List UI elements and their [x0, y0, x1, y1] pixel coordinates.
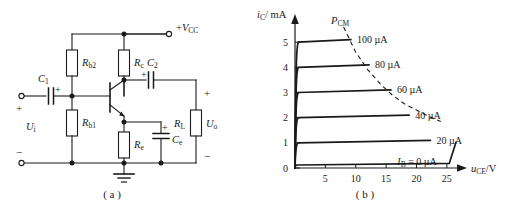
figure-root: +VCC Rb2 Rb1 Rc Re RL C1 C2 Ce Ui Uo + −…: [0, 0, 521, 210]
curve-label: 40 µA: [415, 110, 441, 121]
resistor-re-body: [119, 132, 130, 158]
x-tick-label: 20: [411, 173, 421, 184]
junction-dot: [122, 120, 127, 125]
y-tick-label: 3: [283, 87, 288, 98]
supply-label-sub: CC: [188, 26, 198, 35]
label-c2: C2: [147, 57, 158, 70]
uo-plus-sign: +: [204, 87, 210, 99]
ce-plus-sign: +: [162, 122, 168, 133]
resistor-rb1-body: [67, 110, 78, 136]
x-tick-label: 5: [323, 173, 328, 184]
x-axis-label: uCE/V: [471, 163, 497, 176]
x-tick-label: 10: [351, 173, 361, 184]
ui-plus-sign: +: [16, 102, 22, 114]
label-rb2: Rb2: [81, 57, 96, 70]
curve-label: 80 µA: [375, 59, 401, 70]
input-terminal-positive: [19, 93, 24, 98]
output-characteristics-chart: 510152025 012345 100 µA80 µA60 µA40 µA20…: [255, 0, 521, 210]
circuit-schematic-panel: +VCC Rb2 Rb1 Rc Re RL C1 C2 Ce Ui Uo + −…: [0, 0, 255, 210]
y-axis-arrowhead: [291, 14, 299, 24]
y-tick-labels: 012345: [283, 37, 288, 174]
x-tick-label: 15: [381, 173, 391, 184]
panel-b-caption: ( b ): [356, 188, 375, 201]
c1-plus-sign: +: [55, 84, 61, 95]
y-tick-label: 5: [283, 37, 288, 48]
x-tick-label: 25: [442, 173, 452, 184]
y-tick-label: 2: [283, 112, 288, 123]
junction-dot: [122, 32, 127, 37]
label-re: Re: [133, 139, 144, 152]
x-tick-labels: 510152025: [323, 173, 452, 184]
junction-dot: [70, 161, 75, 166]
curve-label: 20 µA: [436, 135, 462, 146]
label-uo: Uo: [206, 118, 218, 131]
c2-plus-sign: +: [141, 69, 147, 80]
label-ce: Ce: [172, 134, 183, 147]
resistor-rl-body: [191, 110, 202, 136]
y-tick-label: 4: [283, 62, 288, 73]
resistor-rc-body: [119, 50, 130, 76]
label-ui: Ui: [26, 121, 36, 134]
y-tick-label: 1: [283, 137, 288, 148]
transistor-collector-lead: [110, 80, 124, 90]
x-axis-arrowhead: [457, 164, 467, 172]
label-c1: C1: [38, 73, 49, 86]
ui-minus-sign: −: [16, 146, 22, 158]
resistor-rb2-body: [67, 50, 78, 76]
supply-terminal: [166, 31, 171, 36]
label-rb1: Rb1: [81, 117, 96, 130]
junction-dot: [159, 161, 164, 166]
label-rl: RL: [173, 118, 185, 131]
curve-label: 60 µA: [397, 84, 423, 95]
characteristic-curve: [295, 90, 391, 168]
junction-dot: [122, 78, 127, 83]
junction-dots: [70, 32, 164, 166]
uo-minus-sign: −: [204, 150, 210, 162]
junction-dot: [70, 94, 75, 99]
curve-labels: 100 µA80 µA60 µA40 µA20 µAIB = 0 µA: [357, 34, 463, 169]
curve-label: 100 µA: [357, 34, 388, 45]
pcm-label: PCM: [330, 15, 349, 28]
input-terminal-negative: [19, 160, 24, 165]
y-axis-label: iC/ mA: [257, 9, 287, 22]
supply-label: +VCC: [176, 22, 198, 35]
junction-dot: [122, 161, 127, 166]
characteristic-curve: [295, 40, 351, 168]
panel-a-caption: ( a ): [103, 188, 121, 201]
y-tick-label: 0: [283, 163, 288, 174]
